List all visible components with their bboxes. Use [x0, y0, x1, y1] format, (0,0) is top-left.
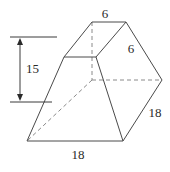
top-right-edge — [96, 22, 126, 57]
arrow-up-icon — [17, 38, 23, 45]
label-top-side-edge: 6 — [128, 41, 135, 56]
lateral-front-right-edge — [96, 57, 123, 141]
label-top-front-edge: 6 — [102, 6, 109, 21]
label-height: 15 — [26, 61, 39, 76]
frustum-diagram: 15 6 6 18 18 — [0, 0, 170, 172]
hidden-bottom-left-edge — [27, 80, 92, 141]
label-bottom-side-edge: 18 — [149, 105, 162, 120]
top-left-edge — [64, 22, 92, 57]
arrow-down-icon — [17, 94, 23, 101]
label-bottom-front-edge: 18 — [72, 147, 85, 162]
